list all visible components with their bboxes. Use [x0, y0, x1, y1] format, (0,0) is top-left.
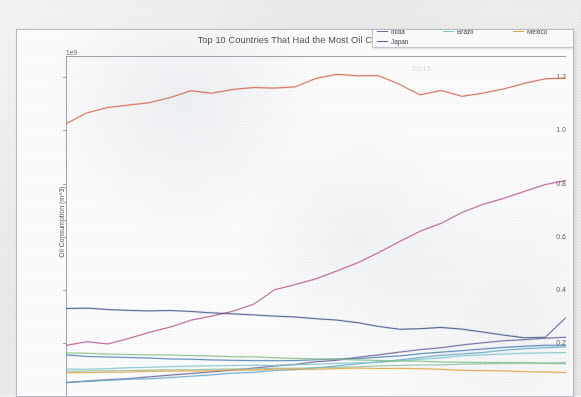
legend-column-2: RussiaSaudi ArabiaBrazil	[443, 29, 493, 37]
legend-color-swatch	[377, 31, 388, 32]
series-line-japan	[66, 308, 566, 338]
legend-entry[interactable]: India	[377, 29, 429, 37]
legend-entry[interactable]: Brazil	[443, 29, 493, 37]
legend-label: Mexico	[527, 29, 547, 35]
series-line-china	[66, 180, 566, 345]
legend-label: India	[391, 29, 405, 35]
chart-legend: United StatesChinaIndiaJapan RussiaSaudi…	[372, 29, 574, 48]
y-axis-exponent-label: 1e9	[66, 49, 77, 56]
legend-label: Brazil	[457, 29, 473, 35]
legend-entry[interactable]: Japan	[377, 37, 429, 47]
legend-entry[interactable]: Mexico	[513, 29, 553, 37]
series-line-halo	[66, 180, 566, 345]
y-axis-label: Oil Consumption (m^3)	[58, 186, 65, 257]
series-line-halo	[66, 74, 566, 123]
legend-color-swatch	[443, 31, 454, 32]
legend-column-3: CanadaGermanyMexico	[513, 29, 553, 37]
legend-label: Japan	[391, 38, 408, 45]
plot-area: 1e9 Oil Consumption (m^3) 0.20.40.60.81.…	[42, 47, 566, 396]
chart-figure: Top 10 Countries That Had the Most Oil C…	[16, 29, 574, 397]
legend-column-1: United StatesChinaIndiaJapan	[377, 29, 429, 47]
series-lines	[66, 56, 566, 396]
legend-color-swatch	[513, 31, 524, 32]
series-line-united-states	[66, 74, 566, 123]
legend-color-swatch	[377, 41, 388, 42]
